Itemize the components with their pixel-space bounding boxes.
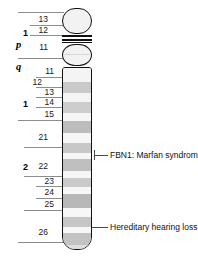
- arm-label-p: p: [16, 40, 21, 50]
- stripe-3: [62, 42, 92, 43]
- leader-line-ptel: [18, 12, 64, 13]
- chromosome-band-q11: [63, 68, 91, 82]
- band-label-q22: 22: [32, 162, 48, 171]
- fbn1-callout-line: [94, 155, 108, 156]
- ideogram-figure: p q 1 1 2 13 12 11 11 12 13 14 15 21 22 …: [0, 0, 198, 260]
- leader-line-q14: [36, 107, 64, 108]
- stripe-1: [62, 35, 92, 37]
- chromosome-band-q21-light: [63, 133, 91, 143]
- arm-label-q: q: [16, 62, 21, 72]
- band-label-q13: 13: [38, 88, 54, 97]
- band-label-q24: 24: [38, 188, 54, 197]
- leader-line-p11: [18, 58, 64, 59]
- chromosome-band-q15-light: [63, 113, 91, 121]
- chromosome-band-q22-light: [63, 171, 91, 178]
- chromosome-band-q15: [63, 121, 91, 133]
- band-label-p12: 12: [32, 26, 48, 35]
- annotation-fbn1: FBN1: Marfan syndrome: [110, 150, 198, 160]
- chromosome-band-q14: [63, 102, 91, 113]
- chromosome-band-q24: [63, 194, 91, 208]
- chromosome-band-p12-stripes: [62, 35, 92, 43]
- band-label-p13: 13: [32, 15, 48, 24]
- region-label-q1: 1: [18, 100, 28, 109]
- band-label-q25: 25: [38, 200, 54, 209]
- region-label-p1: 1: [18, 29, 28, 38]
- leader-line-qtel: [18, 242, 64, 243]
- band-label-q15: 15: [38, 110, 54, 119]
- chromosome-band-q22: [63, 159, 91, 171]
- chromosome-15-ideogram: [62, 8, 92, 250]
- chromosome-band-p11: [62, 44, 92, 66]
- leader-line-q15: [18, 120, 64, 121]
- chromosome-band-p13: [62, 8, 92, 34]
- hearing-callout-line: [92, 227, 108, 228]
- chromosome-band-q21: [63, 143, 91, 153]
- leader-line-p12: [30, 35, 64, 36]
- chromosome-band-q12: [63, 82, 91, 93]
- chromosome-band-q26: [63, 233, 91, 245]
- annotation-hereditary-hearing-loss: Hereditary hearing loss: [110, 222, 197, 232]
- band-label-q23: 23: [38, 177, 54, 186]
- stripe-2: [62, 39, 92, 41]
- leader-line-q21: [24, 147, 64, 148]
- chromosome-band-q23: [63, 178, 91, 187]
- chromosome-band-q23-light: [63, 187, 91, 194]
- band-label-q26: 26: [32, 228, 48, 237]
- band-label-q21: 21: [32, 133, 48, 142]
- chromosome-band-q13: [63, 93, 91, 102]
- band-label-q12: 12: [26, 78, 42, 87]
- p11-shade: [63, 54, 91, 55]
- chromosome-band-q25: [63, 217, 91, 227]
- chromosome-band-qter: [63, 245, 91, 250]
- chromosome-band-q25-light: [63, 208, 91, 217]
- chromosome-q-arm: [62, 67, 92, 250]
- band-label-p11: 11: [32, 43, 48, 52]
- region-label-q2: 2: [18, 163, 28, 172]
- leader-line-q25: [24, 210, 64, 211]
- band-label-q11: 11: [38, 67, 54, 76]
- band-label-q14: 14: [38, 98, 54, 107]
